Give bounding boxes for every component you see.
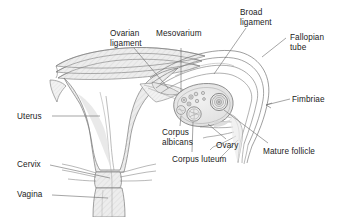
label-uterus: Uterus <box>17 112 42 122</box>
label-cervix: Cervix <box>17 160 41 170</box>
corpus-luteum <box>187 107 201 121</box>
broad-ligament-sheets <box>56 47 205 79</box>
corpus-albicans <box>177 106 186 115</box>
label-fallopian-tube: Fallopian tube <box>290 33 324 52</box>
label-corpus-albicans: Corpus albicans <box>162 128 193 147</box>
mature-follicle <box>210 93 227 110</box>
label-ovarian-ligament: Ovarian ligament <box>110 29 142 48</box>
label-mesovarium: Mesovarium <box>156 29 202 39</box>
vagina <box>93 188 125 217</box>
anatomy-diagram: Ovarian ligament Mesovarium Broad ligame… <box>0 0 344 217</box>
label-corpus-luteum: Corpus luteum <box>172 155 227 165</box>
cervix <box>62 164 156 188</box>
label-fimbriae: Fimbriae <box>292 95 325 105</box>
uterus-left-horn <box>50 80 66 102</box>
label-vagina: Vagina <box>17 190 43 200</box>
leader-fallopian-tube <box>262 38 286 57</box>
label-broad-ligament: Broad ligament <box>240 8 272 27</box>
label-ovary: Ovary <box>216 141 238 151</box>
label-mature-follicle: Mature follicle <box>263 147 315 157</box>
